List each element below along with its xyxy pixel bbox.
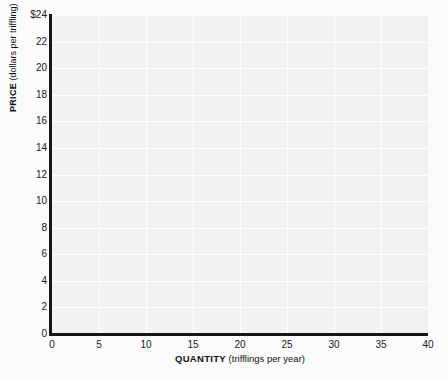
y-axis-tick-label: 2 xyxy=(1,302,47,312)
y-axis-tick-label: 10 xyxy=(1,196,47,206)
y-axis-title: PRICE (dollars per triffling) xyxy=(8,96,19,112)
price-quantity-chart: 0246810121416182022$24 PRICE (dollars pe… xyxy=(0,0,447,380)
x-axis-title: QUANTITY (trifflings per year) xyxy=(52,353,428,365)
y-axis-tick-label: 14 xyxy=(1,143,47,153)
gridline-vertical xyxy=(287,15,288,334)
x-axis-title-unit: (trifflings per year) xyxy=(229,353,305,364)
y-axis-tick-label: 16 xyxy=(1,116,47,126)
y-axis-line xyxy=(49,14,52,336)
y-axis-tick-label: 6 xyxy=(1,249,47,259)
x-axis-tick-label: 25 xyxy=(281,339,292,350)
x-axis-tick-label: 35 xyxy=(375,339,386,350)
x-axis-tick-label: 30 xyxy=(328,339,339,350)
gridline-vertical xyxy=(381,15,382,334)
x-axis-title-bold: QUANTITY xyxy=(175,353,226,364)
x-axis-tick-label: 10 xyxy=(140,339,151,350)
gridline-vertical xyxy=(99,15,100,334)
x-axis-tick-label: 40 xyxy=(422,339,433,350)
y-axis-tick-label: 8 xyxy=(1,223,47,233)
gridline-vertical xyxy=(334,15,335,334)
x-axis-tick-label: 15 xyxy=(187,339,198,350)
plot-area[interactable] xyxy=(52,15,428,334)
y-axis-tick-label: 12 xyxy=(1,170,47,180)
x-axis-tick-label: 20 xyxy=(234,339,245,350)
y-axis-title-unit: (dollars per triffling) xyxy=(8,4,18,81)
gridline-vertical xyxy=(240,15,241,334)
x-axis-tick-label: 5 xyxy=(96,339,102,350)
y-axis-tick-label: 0 xyxy=(1,329,47,339)
y-axis-tick-label: 4 xyxy=(1,276,47,286)
gridline-vertical xyxy=(193,15,194,334)
x-axis-tick-label: 0 xyxy=(49,339,55,350)
gridline-vertical xyxy=(146,15,147,334)
x-axis-line xyxy=(49,333,428,336)
y-axis-title-bold: PRICE xyxy=(8,83,18,112)
